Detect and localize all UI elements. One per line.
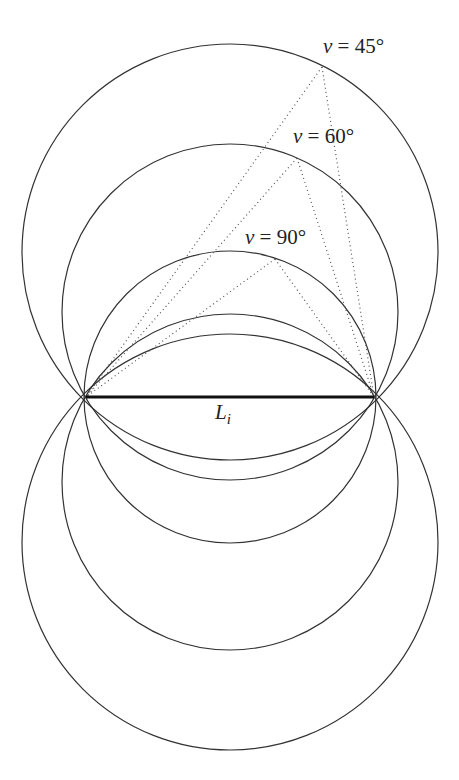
segment-label: Li	[214, 400, 231, 427]
segment-label-sub: i	[227, 411, 231, 427]
inscribed-angle-diagram: v = 45°v = 60°v = 90° Li	[0, 0, 459, 780]
sightline-v60-right	[297, 158, 374, 397]
label-v45: v = 45°	[323, 34, 384, 58]
arc-v60-upper	[62, 144, 398, 480]
angle-labels: v = 45°v = 60°v = 90°	[245, 34, 384, 249]
sightline-v60-left	[86, 158, 297, 397]
arc-v60-lower	[62, 314, 398, 650]
label-v90: v = 90°	[245, 225, 306, 249]
sightline-v90-left	[86, 259, 275, 397]
segment-label-main: L	[214, 400, 227, 424]
label-v60: v = 60°	[293, 124, 354, 148]
